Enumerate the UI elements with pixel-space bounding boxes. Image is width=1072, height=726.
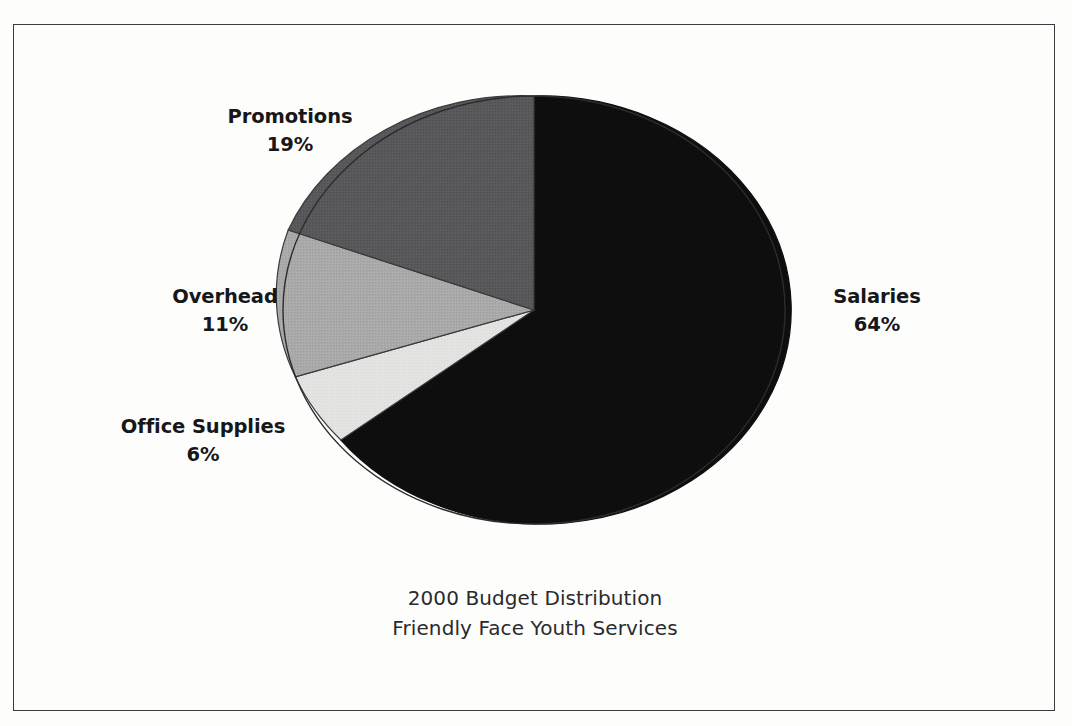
document-page: Promotions 19% Overhead 11% Office Suppl… — [0, 0, 1072, 726]
pie-label-office-supplies-name: Office Supplies — [78, 413, 328, 441]
pie-label-overhead: Overhead 11% — [120, 283, 330, 340]
pie-label-promotions: Promotions 19% — [185, 103, 395, 160]
pie-label-promotions-name: Promotions — [185, 103, 395, 131]
pie-chart-figure: Promotions 19% Overhead 11% Office Suppl… — [0, 0, 1072, 726]
chart-caption: 2000 Budget Distribution Friendly Face Y… — [235, 583, 835, 644]
pie-label-salaries: Salaries 64% — [772, 283, 982, 340]
chart-caption-subtitle: Friendly Face Youth Services — [235, 613, 835, 643]
pie-label-overhead-name: Overhead — [120, 283, 330, 311]
pie-label-promotions-percent: 19% — [185, 131, 395, 159]
pie-label-salaries-percent: 64% — [772, 311, 982, 339]
pie-label-salaries-name: Salaries — [772, 283, 982, 311]
pie-label-overhead-percent: 11% — [120, 311, 330, 339]
chart-caption-title: 2000 Budget Distribution — [235, 583, 835, 613]
pie-label-office-supplies: Office Supplies 6% — [78, 413, 328, 470]
pie-label-office-supplies-percent: 6% — [78, 441, 328, 469]
